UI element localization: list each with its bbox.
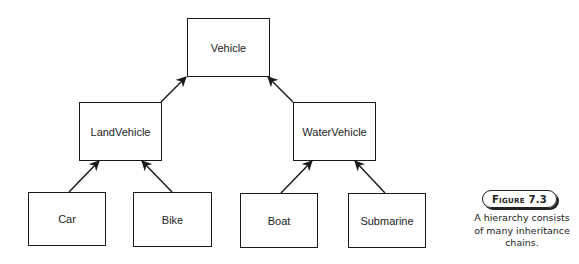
arrow-boat-to-watervehicle [281, 161, 312, 193]
arrow-bike-to-landvehicle [142, 161, 172, 192]
node-bike: Bike [133, 192, 212, 247]
node-label: Boat [268, 215, 291, 227]
figure-label-badge: Figure 7.3 [482, 190, 557, 208]
node-submarine: Submarine [348, 193, 426, 248]
arrow-car-to-landvehicle [69, 161, 99, 192]
node-watervehicle: WaterVehicle [293, 102, 376, 161]
node-label: LandVehicle [91, 126, 151, 138]
arrow-submarine-to-watervehicle [355, 161, 385, 193]
node-boat: Boat [240, 193, 318, 248]
figure-caption: A hierarchy consists of many inheritance… [474, 212, 570, 250]
node-vehicle: Vehicle [187, 18, 270, 77]
node-label: Vehicle [211, 42, 246, 54]
node-label: Bike [162, 214, 183, 226]
node-label: Submarine [360, 215, 413, 227]
arrow-landvehicle-to-vehicle [161, 77, 186, 102]
node-label: WaterVehicle [302, 126, 366, 138]
node-car: Car [28, 192, 106, 246]
figure-label: Figure 7.3 [492, 194, 547, 205]
node-label: Car [58, 213, 76, 225]
arrow-watervehicle-to-vehicle [268, 77, 293, 102]
node-landvehicle: LandVehicle [79, 102, 162, 161]
